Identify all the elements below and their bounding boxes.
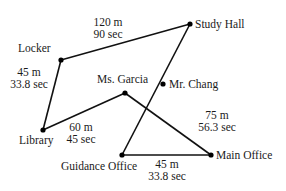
node-dot-main_office	[208, 152, 213, 157]
edge-distance: 75 m	[205, 109, 228, 121]
node-label-main_office: Main Office	[216, 149, 272, 161]
node-label-library: Library	[19, 134, 54, 147]
school-route-diagram: 120 m90 sec45 m33.8 sec60 m45 sec75 m56.…	[0, 0, 286, 191]
edge-distance: 60 m	[69, 121, 92, 133]
edge-time: 33.8 sec	[148, 170, 186, 182]
node-label-study_hall: Study Hall	[195, 18, 245, 31]
node-dot-guidance_office	[119, 152, 124, 157]
edge-time: 56.3 sec	[198, 121, 236, 133]
node-label-mr_chang: Mr. Chang	[169, 78, 218, 91]
edge-distance: 45 m	[17, 66, 40, 78]
edge-locker-library	[43, 60, 61, 130]
edge-time: 45 sec	[66, 133, 95, 145]
node-label-ms_garcia: Ms. Garcia	[97, 73, 148, 85]
edge-label-locker-library: 45 m33.8 sec	[10, 66, 48, 90]
edge-time: 33.8 sec	[10, 78, 48, 90]
edge-label-guidance_office-main_office: 45 m33.8 sec	[148, 158, 186, 182]
node-dot-ms_garcia	[122, 90, 127, 95]
node-labels-layer: LockerStudy HallMr. ChangMs. GarciaLibra…	[18, 18, 272, 172]
node-dot-study_hall	[187, 21, 192, 26]
edge-label-locker-study_hall: 120 m90 sec	[93, 16, 122, 40]
node-dot-library	[40, 127, 45, 132]
edge-label-ms_garcia-main_office: 75 m56.3 sec	[198, 109, 236, 133]
node-label-locker: Locker	[18, 42, 51, 54]
edge-time: 90 sec	[93, 28, 122, 40]
edge-locker-study_hall	[61, 24, 190, 60]
edge-distance: 45 m	[155, 158, 178, 170]
edge-distance: 120 m	[93, 16, 122, 28]
node-dot-locker	[58, 57, 63, 62]
node-label-guidance_office: Guidance Office	[61, 160, 137, 172]
edge-label-library-ms_garcia: 60 m45 sec	[66, 121, 95, 145]
node-dot-mr_chang	[160, 81, 165, 86]
